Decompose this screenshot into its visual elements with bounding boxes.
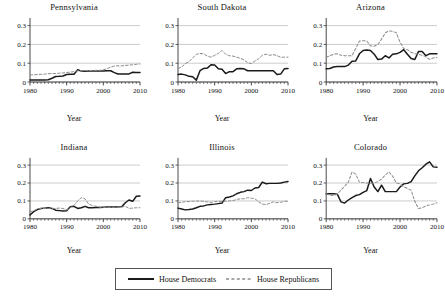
svg-text:0.3: 0.3 [165,162,174,169]
svg-text:0: 0 [23,79,27,87]
svg-text:0.2: 0.2 [313,41,322,49]
panel-illinois: Illinois00.10.20.31980199020002010Year [148,140,296,265]
x-axis-label: Year [0,114,148,123]
svg-text:1980: 1980 [171,223,186,230]
series-line-republicans [178,50,288,68]
svg-text:2000: 2000 [96,223,111,230]
svg-text:0: 0 [22,215,26,222]
svg-text:1990: 1990 [356,87,371,95]
svg-text:0.2: 0.2 [17,41,26,49]
svg-text:2000: 2000 [393,223,408,230]
svg-text:2000: 2000 [393,87,408,95]
svg-text:0.2: 0.2 [165,180,174,187]
legend-line-solid-icon [128,275,154,283]
svg-text:0: 0 [319,215,323,222]
x-axis-label: Year [148,114,296,123]
svg-text:1990: 1990 [356,223,371,230]
svg-text:2010: 2010 [133,87,148,95]
panel-colorado: Colorado00.10.20.31980199020002010Year [296,140,445,265]
svg-text:0.3: 0.3 [17,162,26,169]
panel-arizona: Arizona00.10.20.31980199020002010Year [296,0,445,140]
svg-text:1980: 1980 [319,87,334,95]
plot-area: 00.10.20.31980199020002010 [148,154,296,236]
panel-title: Indiana [0,142,148,152]
plot-area: 00.10.20.31980199020002010 [0,14,148,100]
svg-text:0.3: 0.3 [313,162,322,169]
legend-line-dashed-icon [226,275,252,283]
chart-legend: House Democrats House Republicans [115,268,332,290]
plot-area: 00.10.20.31980199020002010 [296,154,445,236]
plot-area: 00.10.20.31980199020002010 [0,154,148,236]
svg-text:1980: 1980 [171,87,186,95]
panel-pennsylvania: Pennsylvania00.10.20.31980199020002010Ye… [0,0,148,140]
svg-text:2000: 2000 [244,87,259,95]
svg-text:1980: 1980 [319,223,334,230]
panel-title: South Dakota [148,2,296,12]
svg-text:1990: 1990 [208,223,223,230]
svg-text:0.1: 0.1 [17,60,26,68]
panel-south-dakota: South Dakota00.10.20.31980199020002010Ye… [148,0,296,140]
svg-text:0: 0 [170,215,174,222]
svg-text:1990: 1990 [60,87,75,95]
x-axis-label: Year [296,114,445,123]
svg-text:0.1: 0.1 [313,60,322,68]
svg-text:2000: 2000 [244,223,259,230]
svg-text:2010: 2010 [281,87,296,95]
svg-text:0.1: 0.1 [17,198,26,205]
x-axis-label: Year [148,246,296,255]
series-line-democrats [178,65,288,80]
svg-text:0.2: 0.2 [313,180,322,187]
legend-entry-republicans: House Republicans [226,275,319,284]
panel-grid: Pennsylvania00.10.20.31980199020002010Ye… [0,0,445,265]
plot-area: 00.10.20.31980199020002010 [296,14,445,100]
svg-text:2010: 2010 [430,87,445,95]
legend-label-republicans: House Republicans [257,275,319,284]
svg-text:0.1: 0.1 [165,60,174,68]
legend-label-democrats: House Democrats [159,275,216,284]
svg-text:1980: 1980 [23,87,38,95]
svg-text:0.3: 0.3 [165,22,174,30]
svg-text:0.3: 0.3 [17,22,26,30]
x-axis-label: Year [296,246,445,255]
svg-text:2010: 2010 [281,223,296,230]
series-line-republicans [326,31,437,60]
svg-text:1980: 1980 [23,223,38,230]
svg-text:0: 0 [171,79,175,87]
panel-indiana: Indiana00.10.20.31980199020002010Year [0,140,148,265]
svg-text:0.3: 0.3 [313,22,322,30]
series-line-democrats [326,162,437,203]
series-line-democrats [30,70,140,80]
svg-text:1990: 1990 [60,223,75,230]
series-line-democrats [178,182,288,210]
series-line-democrats [326,50,437,69]
svg-text:0.1: 0.1 [313,198,322,205]
svg-text:2000: 2000 [96,87,111,95]
svg-text:0: 0 [319,79,323,87]
svg-text:1990: 1990 [208,87,223,95]
panel-title: Illinois [148,142,296,152]
figure-small-multiples-chart: Pennsylvania00.10.20.31980199020002010Ye… [0,0,445,301]
plot-area: 00.10.20.31980199020002010 [148,14,296,100]
panel-title: Pennsylvania [0,2,148,12]
x-axis-label: Year [0,246,148,255]
svg-text:0.2: 0.2 [17,180,26,187]
panel-title: Colorado [296,142,445,152]
legend-entry-democrats: House Democrats [128,275,216,284]
svg-text:2010: 2010 [133,223,148,230]
panel-title: Arizona [296,2,445,12]
svg-text:2010: 2010 [430,223,445,230]
svg-text:0.2: 0.2 [165,41,174,49]
svg-text:0.1: 0.1 [165,198,174,205]
